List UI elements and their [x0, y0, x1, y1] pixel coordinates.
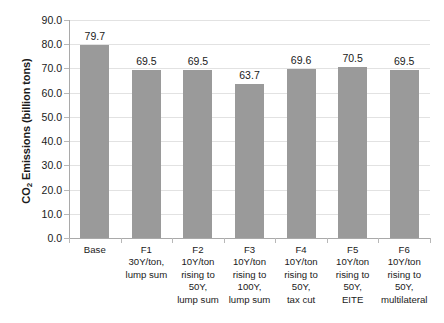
x-axis-category-labels: BaseF130Y/ton,lump sumF210Y/tonrising to…: [69, 244, 430, 320]
x-axis-tick-mark: [430, 238, 431, 243]
x-axis-category-label: F410Y/tonrising to50Y,tax cut: [275, 244, 327, 306]
x-axis-category-label: F310Y/tonrising to100Y,lump sum: [224, 244, 276, 306]
x-axis-category-label-line: F2: [172, 244, 224, 256]
y-axis-tick-label: 20.0: [34, 185, 62, 195]
x-axis-category-label-line: Base: [69, 244, 121, 256]
x-axis-category-label-line: 10Y/ton: [378, 256, 430, 268]
x-axis-category-label-line: rising to: [378, 269, 430, 281]
y-axis-tick-label: 60.0: [34, 88, 62, 98]
y-axis-tick-label: 10.0: [34, 209, 62, 219]
y-axis-tick-label: 50.0: [34, 112, 62, 122]
x-axis-line: [69, 238, 431, 239]
x-axis-category-label-line: 100Y,: [224, 281, 276, 293]
x-axis-category-label-line: 50Y,: [327, 281, 379, 293]
x-axis-category-label-line: rising to: [172, 269, 224, 281]
x-axis-category-label: F130Y/ton,lump sum: [121, 244, 173, 281]
x-axis-tick-mark: [172, 238, 173, 243]
bar: [287, 69, 316, 238]
y-axis-title-prefix: CO: [20, 187, 32, 203]
bar: [338, 67, 367, 238]
x-axis-tick-mark: [378, 238, 379, 243]
x-axis-category-label-line: rising to: [275, 269, 327, 281]
y-axis-tick-label: 90.0: [34, 15, 62, 25]
x-axis-category-label: F610Y/tonrising to50Y,multilateral: [378, 244, 430, 306]
x-axis-category-label-line: lump sum: [121, 269, 173, 281]
x-axis-category-label-line: F6: [378, 244, 430, 256]
x-axis-category-label-line: 10Y/ton: [275, 256, 327, 268]
x-axis-tick-mark: [275, 238, 276, 243]
x-axis-category-label-line: multilateral: [378, 294, 430, 306]
y-axis-title-subscript: 2: [25, 183, 34, 187]
x-axis-category-label-line: lump sum: [172, 294, 224, 306]
x-axis-category-label-line: F5: [327, 244, 379, 256]
x-axis-category-label: F510Y/tonrising to50Y,EITE: [327, 244, 379, 306]
x-axis-tick-mark: [327, 238, 328, 243]
y-axis-tick-label: 70.0: [34, 63, 62, 73]
x-axis-category-label-line: EITE: [327, 294, 379, 306]
gridline: [69, 20, 430, 21]
x-axis-category-label-line: F3: [224, 244, 276, 256]
x-axis-category-label-line: 10Y/ton: [172, 256, 224, 268]
x-axis-category-label-line: 10Y/ton: [224, 256, 276, 268]
gridline: [69, 44, 430, 45]
bar: [390, 70, 419, 238]
bar: [80, 45, 109, 238]
bar: [132, 70, 161, 238]
x-axis-category-label-line: 50Y,: [378, 281, 430, 293]
bar-value-label: 69.5: [168, 56, 228, 67]
x-axis-category-label-line: 50Y,: [275, 281, 327, 293]
x-axis-category-label-line: lump sum: [224, 294, 276, 306]
y-axis-tick-labels: 0.010.020.030.040.050.060.070.080.090.0: [34, 20, 62, 238]
x-axis-category-label-line: F1: [121, 244, 173, 256]
bar: [235, 84, 264, 238]
y-axis-tick-label: 40.0: [34, 136, 62, 146]
x-axis-category-label-line: 10Y/ton: [327, 256, 379, 268]
x-axis-category-label: F210Y/tonrising to50Y,lump sum: [172, 244, 224, 306]
y-axis-tick-label: 80.0: [34, 39, 62, 49]
x-axis-category-label-line: 50Y,: [172, 281, 224, 293]
y-axis-tick-label: 30.0: [34, 160, 62, 170]
x-axis-category-label-line: rising to: [224, 269, 276, 281]
bar-chart: CO2 Emissions (billion tons) 0.010.020.0…: [0, 0, 444, 323]
y-axis-tick-label: 0.0: [34, 233, 62, 243]
x-axis-tick-mark: [224, 238, 225, 243]
y-axis-title: CO2 Emissions (billion tons): [20, 16, 32, 246]
bar-value-label: 79.7: [65, 31, 125, 42]
x-axis-category-label-line: 30Y/ton,: [121, 256, 173, 268]
x-axis-category-label-line: rising to: [327, 269, 379, 281]
bar-value-label: 63.7: [220, 70, 280, 81]
x-axis-category-label-line: tax cut: [275, 294, 327, 306]
y-axis-title-suffix: Emissions (billion tons): [20, 58, 32, 183]
x-axis-category-label-line: F4: [275, 244, 327, 256]
y-axis-line: [69, 20, 70, 239]
x-axis-tick-mark: [121, 238, 122, 243]
bar: [183, 70, 212, 238]
x-axis-category-label: Base: [69, 244, 121, 256]
x-axis-tick-mark: [69, 238, 70, 243]
bar-value-label: 69.5: [374, 56, 434, 67]
